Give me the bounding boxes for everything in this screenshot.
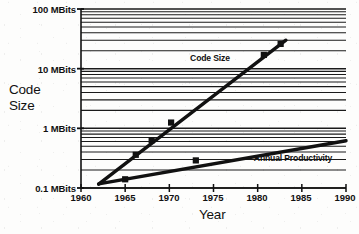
data-point-marker <box>278 41 284 47</box>
data-point-marker <box>168 119 174 125</box>
series-annotation-0: Code Size <box>190 53 230 63</box>
chart-plot-svg: Code SizeAnnual Productivity <box>0 0 359 234</box>
series-annotation-1: Annual Productivity <box>254 153 333 163</box>
data-point-marker <box>133 152 139 158</box>
data-point-marker <box>193 157 199 163</box>
data-point-marker <box>261 52 267 58</box>
data-point-marker <box>149 137 155 143</box>
chart-figure: 100 MBits 10 MBits 1 MBits 0.1 MBits Cod… <box>0 0 359 234</box>
